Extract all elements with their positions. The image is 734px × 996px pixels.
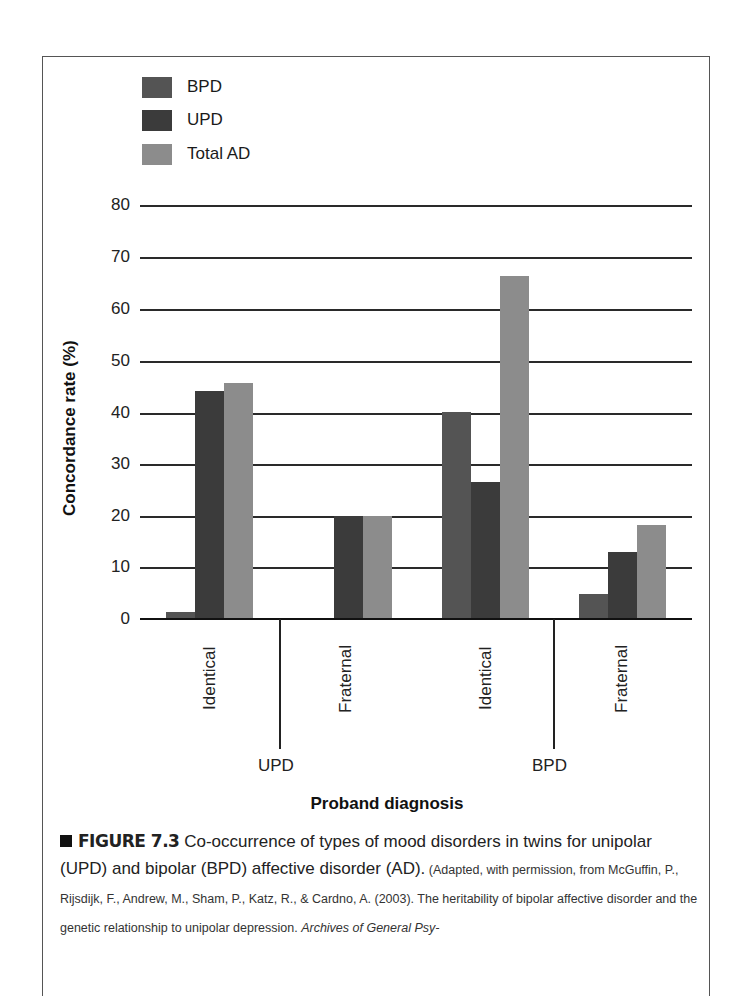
caption-journal: Archives of General Psy- [301, 921, 439, 935]
bar-upd-bpd-fraternal [608, 552, 637, 619]
bar-upd-bpd-identical [471, 482, 500, 619]
legend-label-upd: UPD [187, 110, 223, 130]
y-tick-0: 0 [70, 609, 130, 629]
bar-upd-upd-identical [195, 391, 224, 619]
figure-number: FIGURE 7.3 [78, 831, 179, 851]
legend-label-bpd: BPD [187, 77, 222, 97]
x-axis-baseline [140, 618, 692, 620]
x-subcategory-bpd-fraternal: Fraternal [612, 645, 632, 713]
figure-caption: FIGURE 7.3 Co-occurrence of types of moo… [60, 828, 700, 942]
legend-item-upd: UPD [142, 109, 223, 131]
x-subcategory-upd-fraternal: Fraternal [336, 645, 356, 713]
bar-total-ad-upd-identical [224, 383, 253, 619]
x-group-bpd: BPD [532, 756, 567, 776]
legend-swatch-bpd [142, 77, 172, 98]
group-divider-2 [553, 619, 555, 749]
legend-swatch-total-ad [142, 144, 172, 165]
x-subcategory-bpd-identical: Identical [476, 647, 496, 710]
bar-upd-upd-fraternal [334, 516, 363, 620]
y-axis-label: Concordance rate (%) [60, 340, 80, 516]
bar-total-ad-bpd-fraternal [637, 525, 666, 619]
bar-total-ad-upd-fraternal [363, 516, 392, 620]
bar-total-ad-bpd-identical [500, 276, 529, 619]
legend-label-total-ad: Total AD [187, 144, 250, 164]
group-divider-1 [279, 619, 281, 749]
x-axis-label: Proband diagnosis [0, 794, 734, 814]
x-subcategory-upd-identical: Identical [200, 647, 220, 710]
legend-item-total-ad: Total AD [142, 143, 250, 165]
caption-square-icon [60, 835, 72, 847]
y-tick-80: 80 [70, 195, 130, 215]
y-tick-70: 70 [70, 247, 130, 267]
legend-swatch-upd [142, 110, 172, 131]
gridline-80 [140, 205, 692, 207]
gridline-50 [140, 361, 692, 363]
y-tick-10: 10 [70, 557, 130, 577]
x-group-upd: UPD [258, 756, 294, 776]
gridline-60 [140, 309, 692, 311]
legend-item-bpd: BPD [142, 76, 222, 98]
y-tick-60: 60 [70, 299, 130, 319]
bar-bpd-bpd-identical [442, 412, 471, 619]
bar-bpd-bpd-fraternal [579, 594, 608, 619]
gridline-70 [140, 257, 692, 259]
